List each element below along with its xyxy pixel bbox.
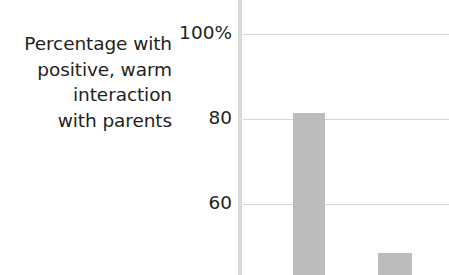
bar [378, 253, 412, 275]
y-axis-tick-label: 100% [172, 23, 232, 43]
y-axis-tick-label: 60 [172, 193, 232, 213]
plot-area [243, 0, 449, 275]
y-axis-title: Percentage with positive, warm interacti… [0, 31, 172, 133]
bar [293, 113, 325, 275]
bar-chart: Percentage with positive, warm interacti… [0, 0, 449, 275]
y-axis-tick-label: 80 [172, 108, 232, 128]
y-axis-line [238, 0, 242, 275]
